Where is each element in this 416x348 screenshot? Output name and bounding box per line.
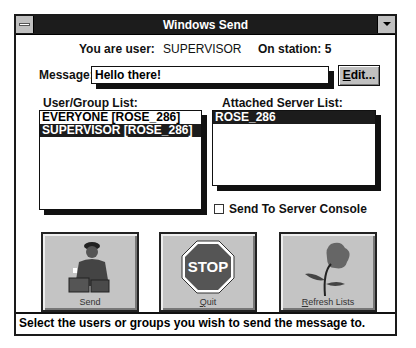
list-item[interactable]: ROSE_286 [213,111,375,124]
refresh-lists-button-label: Refresh Lists [281,297,375,307]
quit-button-label: Quit [161,297,255,307]
svg-text:STOP: STOP [188,258,229,275]
flower-icon [301,238,361,298]
edit-button-label: dit... [351,68,376,82]
server-list-label: Attached Server List: [222,96,343,110]
courier-icon [61,238,121,300]
chevron-down-icon [383,22,391,26]
user-group-list[interactable]: EVERYONE [ROSE_286] SUPERVISOR [ROSE_286… [39,110,202,210]
send-to-console-label[interactable]: Send To Server Console [229,202,367,216]
title-bar[interactable]: Windows Send [16,16,395,35]
user-value: SUPERVISOR [163,42,241,56]
window-title: Windows Send [16,17,395,33]
minimize-button[interactable] [377,16,395,33]
attached-server-list[interactable]: ROSE_286 [212,110,376,186]
windows-send-dialog: Windows Send You are user: SUPERVISOR On… [14,14,397,336]
quit-button[interactable]: STOP Quit [159,232,257,312]
send-button-label: Send [43,297,137,307]
send-to-console-checkbox[interactable] [214,204,224,214]
refresh-lists-button[interactable]: Refresh Lists [279,232,377,312]
station-label: On station: 5 [258,42,331,56]
message-input[interactable]: Hello there! [91,66,329,84]
stop-sign-icon: STOP [181,240,235,294]
message-label: Message: [39,68,94,82]
status-bar: Select the users or groups you wish to s… [16,312,395,334]
list-item[interactable]: SUPERVISOR [ROSE_286] [40,124,201,137]
edit-button[interactable]: Edit... [338,65,380,86]
user-group-list-label: User/Group List: [43,96,138,110]
send-button[interactable]: Send [41,232,139,312]
user-label: You are user: [79,42,155,56]
